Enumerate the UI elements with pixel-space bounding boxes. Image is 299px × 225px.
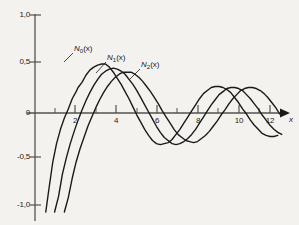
curve-label-n0-sub: 0 — [80, 48, 83, 54]
curve-label-n1-arg: (x) — [116, 53, 125, 62]
curve-n0x — [46, 64, 278, 212]
y-tick-label-0-5: 0,5 — [4, 57, 30, 66]
x-axis-label: x — [289, 115, 293, 124]
neumann-functions-figure: 1,0 0,5 0 -0,5 -1,0 2 4 6 8 10 12 x N0(x… — [0, 0, 299, 225]
curve-label-n0-arg: (x) — [83, 44, 92, 53]
y-tick-label-neg-1-0: -1,0 — [2, 200, 30, 209]
curve-n2x — [64, 72, 279, 212]
curve-label-n0-main: N — [74, 44, 80, 53]
curve-label-n1-sub: 1 — [113, 57, 116, 63]
label-leader-lines — [64, 53, 140, 80]
plot-canvas — [0, 0, 299, 225]
curve-label-n1-main: N — [107, 53, 113, 62]
curve-label-n2-arg: (x) — [150, 60, 159, 69]
x-tick-label-12: 12 — [262, 116, 278, 125]
y-tick-label-1-0: 1,0 — [4, 10, 30, 19]
x-tick-label-8: 8 — [190, 116, 206, 125]
curve-label-n2-sub: 2 — [147, 64, 150, 70]
x-tick-label-10: 10 — [231, 116, 247, 125]
y-tick-label-0: 0 — [4, 108, 30, 117]
x-tick-label-2: 2 — [67, 116, 83, 125]
curve-label-n0: N0(x) — [74, 44, 92, 53]
x-tick-label-6: 6 — [149, 116, 165, 125]
curve-label-n2: N2(x) — [141, 60, 159, 69]
curve-label-n1: N1(x) — [107, 53, 125, 62]
curve-n1x — [55, 68, 282, 212]
x-tick-label-4: 4 — [108, 116, 124, 125]
y-tick-label-neg-0-5: -0,5 — [2, 152, 30, 161]
data-series-group — [46, 64, 282, 212]
curve-label-n2-main: N — [141, 60, 147, 69]
